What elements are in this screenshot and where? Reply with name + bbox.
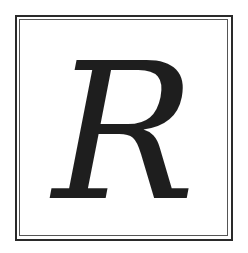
initial-letter: R bbox=[0, 38, 248, 228]
